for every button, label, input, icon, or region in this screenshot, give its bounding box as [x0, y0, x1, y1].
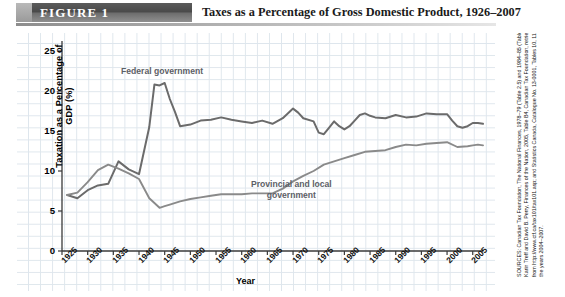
sources-container: SOURCES: Canadian Tax Foundation, The Na… — [499, 33, 563, 295]
y-tick-label: 15 — [33, 125, 55, 136]
y-tick-label: 20 — [33, 85, 55, 96]
figure-header: FIGURE 1 Taxes as a Percentage of Gross … — [0, 0, 565, 27]
sources-note: SOURCES: Canadian Tax Foundation, The Na… — [516, 33, 546, 277]
header-divider — [16, 23, 496, 26]
series-label-provincial: Provincial and local government — [251, 179, 332, 201]
y-axis-title: Taxation as a Percentage of GDP (%) — [54, 36, 74, 176]
figure-root: FIGURE 1 Taxes as a Percentage of Gross … — [0, 0, 565, 297]
figure-badge-tab — [16, 3, 32, 22]
y-tick-label: 25 — [33, 45, 55, 56]
figure-label: FIGURE 1 — [40, 4, 190, 21]
page-title: Taxes as a Percentage of Gross Domestic … — [202, 4, 521, 21]
x-axis-title: Year — [236, 276, 255, 286]
series-label-provincial-line1: Provincial and local — [251, 179, 332, 189]
y-tick-label: 0 — [33, 245, 55, 256]
series-label-provincial-line2: government — [267, 190, 316, 200]
y-tick-label: 5 — [33, 205, 55, 216]
y-tick-label: 10 — [33, 165, 55, 176]
series-label-federal: Federal government — [121, 66, 203, 76]
